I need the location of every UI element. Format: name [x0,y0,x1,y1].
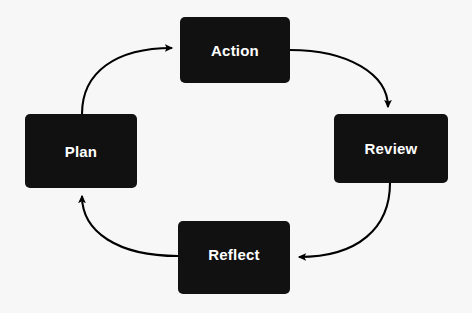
node-reflect[interactable]: Reflect [178,221,290,294]
node-plan[interactable]: Plan [25,114,137,188]
arrow-action-to-review [290,50,388,107]
node-action[interactable]: Action [180,17,290,83]
diagram-canvas: Action Review Reflect Plan [0,0,472,313]
node-review-label: Review [365,141,418,156]
arrow-plan-to-action [82,48,172,114]
arrow-review-to-reflect [299,183,390,257]
node-review[interactable]: Review [334,114,448,183]
arrow-reflect-to-plan [82,196,178,256]
node-plan-label: Plan [65,144,97,159]
node-reflect-label: Reflect [208,247,259,262]
node-action-label: Action [211,43,259,58]
